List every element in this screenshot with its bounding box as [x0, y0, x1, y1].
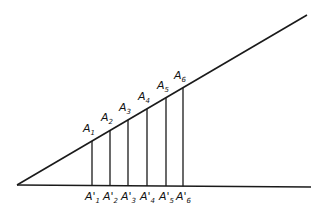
- upper-point-label: A2: [100, 111, 114, 126]
- upper-point-label: A3: [118, 101, 131, 116]
- upper-ray: [17, 15, 307, 185]
- upper-point-label: A1: [82, 122, 95, 137]
- lower-point-label: A'6: [175, 190, 192, 205]
- lower-point-label: A'2: [102, 190, 119, 205]
- base-line: [17, 185, 311, 187]
- lower-point-label: A'3: [120, 190, 136, 205]
- upper-point-label: A5: [156, 79, 170, 94]
- lower-point-label: A'5: [158, 190, 175, 205]
- lower-point-label: A'4: [139, 190, 155, 205]
- upper-point-label: A4: [137, 90, 150, 105]
- upper-point-label: A6: [173, 69, 187, 84]
- lower-point-label: A'1: [84, 190, 100, 205]
- projection-diagram: A1A2A3A4A5A6A'1A'2A'3A'4A'5A'6: [0, 0, 323, 223]
